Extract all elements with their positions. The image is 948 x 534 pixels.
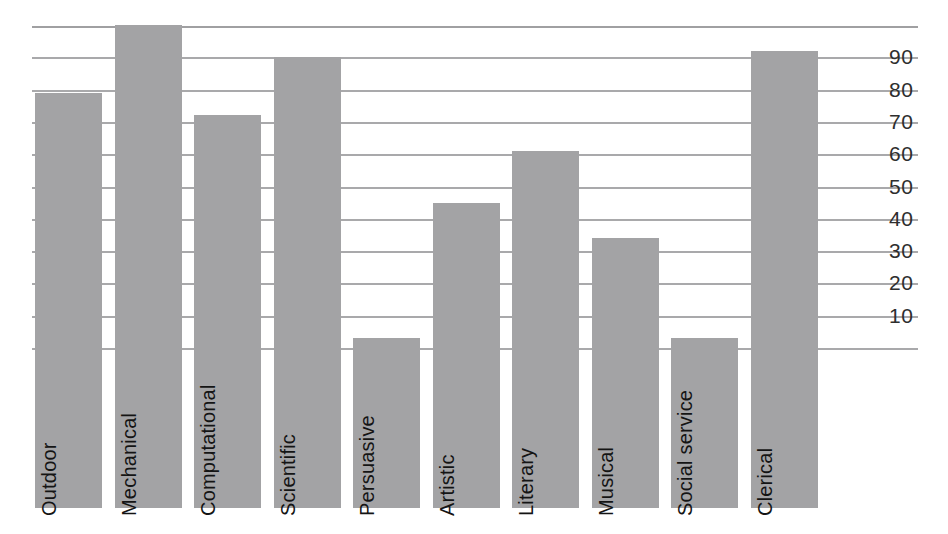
bar-chart: 102030405060708090 OutdoorMechanicalComp… — [0, 0, 948, 534]
bar-label-clerical: Clerical — [755, 448, 775, 516]
bar-label-mechanical: Mechanical — [119, 413, 139, 516]
bar-label-persuasive: Persuasive — [357, 415, 377, 516]
y-tick-label-80: 80 — [889, 79, 913, 100]
y-tick-label-60: 60 — [889, 143, 913, 164]
bar-clerical[interactable] — [751, 51, 818, 508]
y-tick-label-50: 50 — [889, 176, 913, 197]
plot-area: 102030405060708090 OutdoorMechanicalComp… — [0, 0, 948, 534]
y-tick-label-90: 90 — [889, 46, 913, 67]
y-tick-label-10: 10 — [889, 305, 913, 326]
bar-label-musical: Musical — [596, 447, 616, 516]
bar-label-social-service: Social service — [675, 390, 695, 516]
bar-label-artistic: Artistic — [437, 454, 457, 516]
y-tick-label-20: 20 — [889, 272, 913, 293]
y-tick-label-70: 70 — [889, 111, 913, 132]
y-tick-label-40: 40 — [889, 208, 913, 229]
bar-label-computational: Computational — [198, 384, 218, 516]
y-tick-label-30: 30 — [889, 240, 913, 261]
bar-label-scientific: Scientific — [278, 434, 298, 516]
bar-label-outdoor: Outdoor — [39, 442, 59, 516]
bar-label-literary: Literary — [516, 448, 536, 516]
